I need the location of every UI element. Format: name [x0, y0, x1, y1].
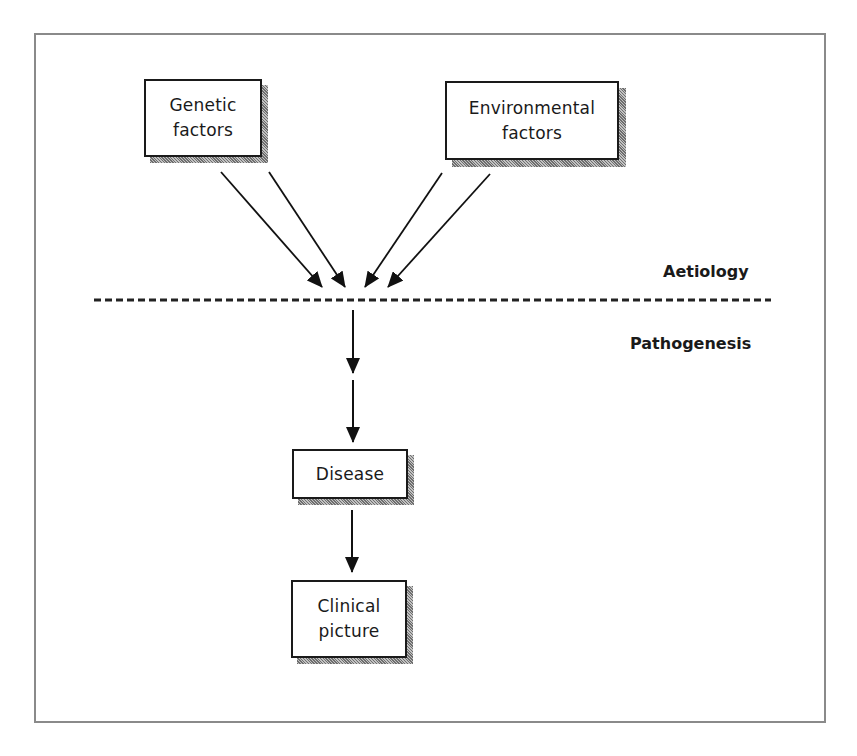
clinical-picture-box: Clinical picture: [291, 580, 407, 658]
genetic-factors-label: Genetic factors: [169, 93, 236, 143]
pathogenesis-label: Pathogenesis: [630, 334, 751, 353]
disease-box: Disease: [292, 449, 408, 499]
environmental-factors-label: Environmental factors: [469, 96, 595, 146]
diagram-connectors: [0, 0, 857, 756]
aetiology-label: Aetiology: [663, 262, 749, 281]
genetic-factors-box: Genetic factors: [144, 79, 262, 157]
environmental-factors-box: Environmental factors: [445, 81, 619, 160]
clinical-picture-label: Clinical picture: [318, 594, 381, 644]
disease-label: Disease: [316, 462, 384, 487]
